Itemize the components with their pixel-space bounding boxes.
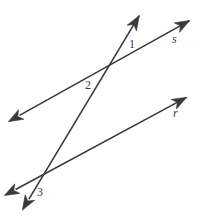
line-label-s: s [172, 33, 177, 45]
line-s [20, 21, 190, 116]
geometry-diagram: 1 2 3 s r [0, 0, 206, 217]
angle-label-3: 3 [37, 186, 43, 198]
angle-label-1: 1 [129, 38, 135, 50]
transversal-line [29, 16, 139, 200]
angle-label-2: 2 [85, 79, 91, 91]
line-label-r: r [173, 107, 178, 119]
line-r [16, 97, 187, 189]
